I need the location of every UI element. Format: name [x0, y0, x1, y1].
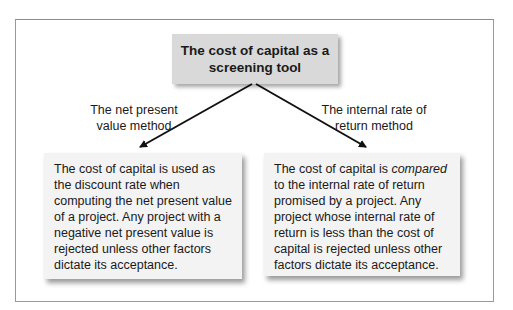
irr-description-emphasis: compared: [391, 162, 447, 176]
branch-label-npv: The net present value method: [84, 102, 184, 134]
npv-description: The cost of capital is used as the disco…: [54, 162, 232, 272]
branch-label-irr: The internal rate of return method: [314, 102, 434, 134]
irr-description-start: The cost of capital is: [274, 162, 391, 176]
branch-label-line: value method: [84, 118, 184, 134]
irr-description-end: to the internal rate of return promised …: [274, 178, 442, 272]
branch-label-line: The net present: [84, 102, 184, 118]
branch-label-line: The internal rate of: [314, 102, 434, 118]
npv-description-box: The cost of capital is used as the disco…: [44, 153, 242, 279]
branch-label-line: return method: [314, 118, 434, 134]
irr-description-box: The cost of capital is compared to the i…: [264, 153, 460, 276]
